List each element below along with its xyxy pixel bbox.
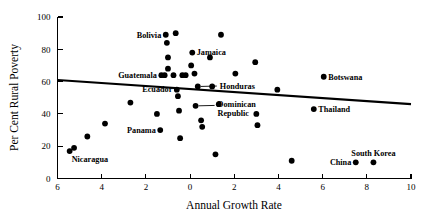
x-tick-label: 0	[188, 182, 193, 192]
data-point-label: Nicaragua	[72, 155, 108, 164]
data-point	[311, 106, 317, 112]
data-point-label: Honduras	[220, 82, 255, 91]
data-point-label: Bolivia	[137, 31, 162, 40]
data-point-label: South Korea	[351, 149, 395, 158]
data-point	[209, 84, 215, 90]
data-point	[154, 111, 160, 117]
data-point	[183, 72, 189, 78]
data-point	[321, 74, 327, 80]
y-tick-label: 100	[37, 12, 51, 22]
x-tick-label: 4	[99, 182, 104, 192]
data-point-label: China	[330, 158, 351, 167]
data-point	[157, 127, 163, 133]
data-point-label: Jamaica	[197, 48, 226, 57]
y-tick-label: 60	[42, 77, 52, 87]
data-point	[218, 32, 224, 38]
y-tick-label: 20	[42, 141, 52, 151]
chart-canvas: 020406080100 6420246810 NicaraguaPanamaB…	[0, 0, 437, 218]
data-point	[189, 50, 195, 56]
data-point	[158, 72, 164, 78]
data-point	[102, 121, 108, 127]
data-point	[176, 108, 182, 114]
scatter-plot-figure: 020406080100 6420246810 NicaraguaPanamaB…	[0, 0, 437, 218]
data-point	[173, 30, 179, 36]
data-point	[164, 40, 170, 46]
data-point	[193, 103, 199, 109]
data-point	[165, 66, 171, 72]
x-tick-label: 10	[407, 182, 417, 192]
y-axis-title: Per Cent Rural Poverty	[8, 44, 21, 151]
data-point-label: Guatemala	[118, 71, 157, 80]
data-point	[371, 159, 377, 165]
data-point	[163, 32, 169, 38]
data-point	[177, 135, 183, 141]
x-tick-label: 4	[276, 182, 281, 192]
data-point	[353, 159, 359, 165]
data-point	[71, 145, 77, 151]
data-point-label: Dominican	[218, 100, 257, 109]
y-tick-label: 80	[42, 45, 52, 55]
x-axis-tick-labels: 6420246810	[55, 182, 416, 192]
y-axis-tick-labels: 020406080100	[37, 12, 51, 184]
x-axis-ticks	[58, 174, 412, 179]
data-point-label: Panama	[127, 126, 156, 135]
data-point	[188, 63, 194, 69]
data-point	[175, 93, 181, 99]
data-point	[199, 124, 205, 130]
x-axis-title: Annual Growth Rate	[186, 199, 282, 211]
data-point	[253, 111, 259, 117]
y-tick-label: 0	[46, 174, 51, 184]
data-point	[289, 158, 295, 164]
x-tick-label: 8	[365, 182, 370, 192]
y-axis-ticks	[58, 17, 63, 179]
data-point-label: Botswana	[328, 73, 362, 82]
data-point-label: Republic	[218, 109, 250, 118]
data-point-label: Ecuador	[142, 85, 172, 94]
data-point	[252, 59, 258, 65]
data-point	[274, 87, 280, 93]
y-tick-label: 40	[42, 109, 52, 119]
data-point	[232, 71, 238, 77]
data-point	[84, 134, 90, 140]
data-point	[213, 151, 219, 157]
x-tick-label: 2	[144, 182, 149, 192]
data-point	[174, 87, 180, 93]
x-tick-label: 6	[55, 182, 60, 192]
x-tick-label: 6	[320, 182, 325, 192]
data-point	[255, 122, 261, 128]
data-point	[165, 54, 171, 60]
data-point-label: Thailand	[318, 105, 350, 114]
data-point	[192, 71, 198, 77]
data-point	[198, 117, 204, 123]
x-tick-label: 2	[232, 182, 237, 192]
data-point	[128, 100, 134, 106]
data-point	[171, 72, 177, 78]
data-point	[195, 84, 201, 90]
